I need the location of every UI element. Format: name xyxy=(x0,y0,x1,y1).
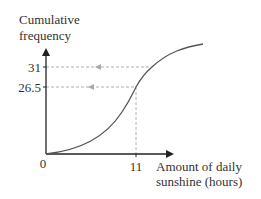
x-tick-label-11: 11 xyxy=(130,159,143,174)
origin-label: 0 xyxy=(40,156,47,171)
cumulative-frequency-chart: Cumulative frequency 31 26.5 0 11 Amount… xyxy=(0,0,261,199)
arrow-left-icon xyxy=(88,84,94,90)
guide-lines xyxy=(46,64,152,154)
arrow-left-icon xyxy=(95,64,101,70)
cumulative-frequency-curve xyxy=(46,44,203,154)
y-tick-label-26-5: 26.5 xyxy=(18,80,41,95)
y-axis-label-line2: frequency xyxy=(19,28,71,43)
y-tick-label-31: 31 xyxy=(28,60,41,75)
x-axis-label-line2: sunshine (hours) xyxy=(156,174,242,189)
y-axis-label-line1: Cumulative xyxy=(19,12,80,27)
x-axis-label-line1: Amount of daily xyxy=(156,159,242,174)
